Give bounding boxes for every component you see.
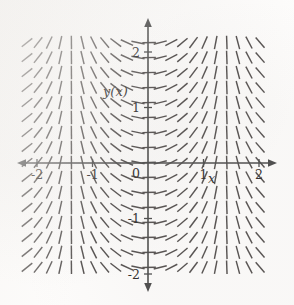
slope-tick xyxy=(121,190,133,196)
slope-tick xyxy=(189,262,197,273)
slope-tick xyxy=(246,246,252,258)
slope-tick xyxy=(91,216,97,228)
slope-tick xyxy=(110,188,121,196)
slope-tick xyxy=(91,96,97,108)
slope-tick xyxy=(34,217,42,228)
y-axis-arrow-down xyxy=(144,283,152,292)
slope-tick xyxy=(246,261,252,273)
slope-tick xyxy=(202,231,207,243)
slope-tick xyxy=(189,127,197,138)
slope-tick xyxy=(100,112,109,122)
slope-tick xyxy=(189,142,197,153)
slope-tick xyxy=(246,201,252,213)
slope-field-figure: -2-11221-1-20 y(x) x xyxy=(0,0,294,305)
slope-tick xyxy=(121,250,133,256)
slope-tick xyxy=(256,67,265,77)
x-axis-arrow-left xyxy=(17,159,26,167)
slope-tick xyxy=(81,231,84,244)
slope-tick xyxy=(100,142,109,152)
slope-tick xyxy=(46,216,52,228)
slope-tick xyxy=(236,261,239,274)
slope-tick xyxy=(214,231,217,244)
x-axis-label: x xyxy=(208,171,216,186)
y-tick-label: -2 xyxy=(128,267,140,282)
slope-tick xyxy=(110,233,121,241)
slope-tick xyxy=(81,36,84,49)
slope-tick xyxy=(100,262,109,272)
slope-tick xyxy=(165,234,177,240)
slope-tick xyxy=(81,216,84,229)
slope-tick xyxy=(214,81,217,94)
slope-tick xyxy=(214,111,217,124)
y-tick-label: 1 xyxy=(132,100,140,115)
slope-tick xyxy=(34,142,42,153)
slope-tick xyxy=(22,263,33,271)
slope-tick xyxy=(22,53,33,61)
slope-tick xyxy=(165,204,177,210)
slope-field-plot: -2-11221-1-20 y(x) x xyxy=(0,0,294,305)
slope-tick xyxy=(202,246,207,258)
slope-tick xyxy=(202,111,207,123)
slope-tick xyxy=(246,186,252,198)
slope-tick xyxy=(110,113,121,121)
slope-tick xyxy=(177,203,187,212)
slope-tick xyxy=(59,201,62,214)
slope-tick xyxy=(246,52,252,64)
slope-tick xyxy=(59,36,62,49)
slope-tick xyxy=(177,143,187,152)
slope-tick xyxy=(91,126,97,138)
slope-tick xyxy=(91,186,97,198)
slope-tick xyxy=(177,263,187,272)
slope-tick xyxy=(256,37,265,47)
slope-tick xyxy=(100,127,109,137)
slope-tick xyxy=(110,248,121,256)
slope-tick xyxy=(177,188,187,197)
slope-tick xyxy=(202,141,207,153)
slope-tick xyxy=(214,216,217,229)
slope-tick xyxy=(46,261,52,273)
slope-tick xyxy=(46,246,52,258)
slope-tick xyxy=(236,66,239,79)
slope-tick xyxy=(177,233,187,242)
slope-tick xyxy=(177,218,187,227)
slope-tick xyxy=(121,115,133,121)
x-tick-label: 1 xyxy=(200,167,208,182)
x-axis-arrow-right xyxy=(268,159,277,167)
slope-tick xyxy=(34,187,42,198)
slope-tick xyxy=(236,171,239,184)
slope-tick xyxy=(256,202,265,212)
slope-tick xyxy=(177,248,187,257)
slope-tick xyxy=(189,82,197,93)
slope-tick xyxy=(59,141,62,154)
slope-tick xyxy=(110,128,121,136)
slope-tick xyxy=(256,142,265,152)
slope-tick xyxy=(81,141,84,154)
slope-tick xyxy=(91,52,97,64)
slope-tick xyxy=(91,261,97,273)
slope-tick xyxy=(91,246,97,258)
slope-tick xyxy=(177,38,187,47)
slope-tick xyxy=(110,173,121,181)
slope-tick xyxy=(246,142,252,154)
slope-tick xyxy=(256,262,265,272)
slope-tick xyxy=(34,232,42,243)
slope-tick xyxy=(59,246,62,259)
slope-tick xyxy=(246,67,252,79)
slope-tick xyxy=(214,126,217,139)
slope-tick xyxy=(177,53,187,62)
x-tick-label: -2 xyxy=(31,167,43,182)
slope-tick xyxy=(214,66,217,79)
slope-tick xyxy=(59,111,62,124)
slope-tick xyxy=(202,96,207,108)
slope-tick xyxy=(189,187,197,198)
slope-tick xyxy=(34,202,42,213)
slope-tick xyxy=(256,187,265,197)
slope-tick xyxy=(81,66,84,79)
slope-tick xyxy=(46,186,52,198)
slope-tick xyxy=(34,247,42,258)
slope-tick xyxy=(189,52,197,63)
slope-tick xyxy=(110,38,121,46)
slope-tick xyxy=(81,81,84,94)
slope-tick xyxy=(177,113,187,122)
slope-tick xyxy=(236,246,239,259)
